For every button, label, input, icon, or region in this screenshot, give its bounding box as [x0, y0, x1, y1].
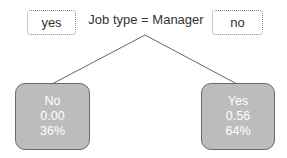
leaf-node-right: Yes 0.56 64% [201, 83, 275, 150]
node-value: 0.56 [226, 109, 250, 124]
yes-branch-label: yes [27, 10, 76, 35]
node-class: Yes [228, 94, 248, 109]
no-branch-label: no [212, 10, 263, 35]
node-class: No [45, 94, 61, 109]
node-percent: 36% [40, 124, 65, 139]
node-value: 0.00 [40, 109, 64, 124]
node-percent: 64% [225, 124, 250, 139]
edge-left [52, 35, 145, 84]
leaf-node-left: No 0.00 36% [15, 83, 90, 150]
edge-right [145, 35, 237, 84]
split-condition: Job type = Manager [86, 12, 206, 27]
